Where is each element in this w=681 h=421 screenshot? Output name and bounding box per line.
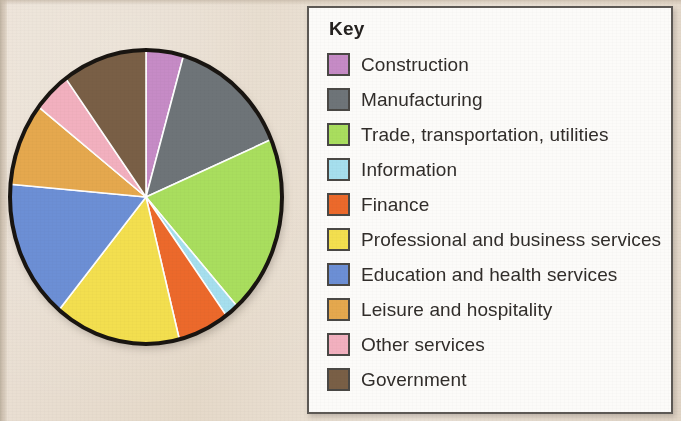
legend-item: Information bbox=[327, 152, 671, 187]
legend-item-label: Finance bbox=[361, 194, 429, 216]
pie-chart bbox=[0, 22, 300, 362]
legend-item: Finance bbox=[327, 187, 671, 222]
legend-item-label: Professional and business services bbox=[361, 229, 661, 251]
legend-item-list: ConstructionManufacturingTrade, transpor… bbox=[327, 47, 671, 397]
legend-color-swatch bbox=[327, 263, 350, 286]
legend-item: Professional and business services bbox=[327, 222, 671, 257]
legend-item-label: Trade, transportation, utilities bbox=[361, 124, 609, 146]
legend-item-label: Manufacturing bbox=[361, 89, 483, 111]
legend-color-swatch bbox=[327, 123, 350, 146]
legend-item-label: Leisure and hospitality bbox=[361, 299, 552, 321]
legend-item: Manufacturing bbox=[327, 82, 671, 117]
legend-item: Leisure and hospitality bbox=[327, 292, 671, 327]
legend-item: Trade, transportation, utilities bbox=[327, 117, 671, 152]
legend-item-label: Other services bbox=[361, 334, 485, 356]
legend-color-swatch bbox=[327, 333, 350, 356]
legend-item: Other services bbox=[327, 327, 671, 362]
legend-item-label: Government bbox=[361, 369, 467, 391]
scan-edge-top bbox=[0, 0, 681, 5]
legend-color-swatch bbox=[327, 228, 350, 251]
legend-color-swatch bbox=[327, 298, 350, 321]
pie-chart-figure: Key ConstructionManufacturingTrade, tran… bbox=[0, 0, 681, 421]
legend-title: Key bbox=[329, 18, 671, 40]
legend-item-label: Education and health services bbox=[361, 264, 617, 286]
legend-color-swatch bbox=[327, 193, 350, 216]
legend-color-swatch bbox=[327, 88, 350, 111]
legend-item: Government bbox=[327, 362, 671, 397]
legend-item: Construction bbox=[327, 47, 671, 82]
legend-color-swatch bbox=[327, 368, 350, 391]
legend-color-swatch bbox=[327, 53, 350, 76]
pie-svg bbox=[0, 22, 300, 362]
legend-item-label: Construction bbox=[361, 54, 469, 76]
legend-item: Education and health services bbox=[327, 257, 671, 292]
legend-panel: Key ConstructionManufacturingTrade, tran… bbox=[307, 6, 673, 414]
legend-item-label: Information bbox=[361, 159, 457, 181]
legend-color-swatch bbox=[327, 158, 350, 181]
